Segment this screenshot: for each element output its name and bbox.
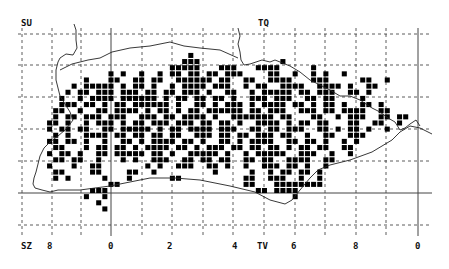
tetrad-record-square: [96, 133, 101, 138]
tetrad-record-square: [127, 127, 132, 132]
tetrad-record-square: [182, 59, 187, 64]
tetrad-record-square: [188, 151, 193, 156]
tetrad-record-square: [280, 108, 285, 113]
tetrad-record-square: [317, 127, 322, 132]
tetrad-record-square: [372, 120, 377, 125]
tetrad-record-square: [139, 133, 144, 138]
tetrad-record-square: [317, 182, 322, 187]
tetrad-record-square: [194, 59, 199, 64]
tetrad-record-square: [213, 145, 218, 150]
tetrad-record-square: [299, 84, 304, 89]
tetrad-record-square: [96, 114, 101, 119]
tetrad-record-square: [102, 133, 107, 138]
tetrad-record-square: [102, 102, 107, 107]
tetrad-record-square: [176, 127, 181, 132]
tetrad-record-square: [250, 96, 255, 101]
tetrad-record-square: [225, 120, 230, 125]
tetrad-record-square: [262, 151, 267, 156]
tetrad-record-square: [299, 108, 304, 113]
tetrad-record-square: [250, 170, 255, 175]
tetrad-record-square: [158, 133, 163, 138]
tetrad-record-square: [268, 163, 273, 168]
tetrad-record-square: [170, 127, 175, 132]
tetrad-record-square: [250, 77, 255, 82]
tetrad-record-square: [299, 120, 304, 125]
tetrad-record-square: [268, 133, 273, 138]
tetrad-record-square: [151, 77, 156, 82]
tetrad-record-square: [121, 151, 126, 156]
tetrad-record-square: [139, 151, 144, 156]
tetrad-record-square: [158, 163, 163, 168]
tetrad-record-square: [305, 139, 310, 144]
tetrad-record-square: [127, 176, 132, 181]
tetrad-record-square: [176, 108, 181, 113]
tetrad-record-square: [256, 188, 261, 193]
tetrad-record-square: [176, 145, 181, 150]
tetrad-record-square: [158, 157, 163, 162]
tetrad-record-square: [311, 108, 316, 113]
tetrad-record-square: [90, 84, 95, 89]
tetrad-record-square: [262, 157, 267, 162]
tetrad-record-square: [90, 102, 95, 107]
tetrad-record-square: [201, 120, 206, 125]
tetrad-record-square: [250, 182, 255, 187]
easting-tick-label: 0: [108, 241, 113, 251]
tetrad-record-square: [170, 114, 175, 119]
tetrad-record-square: [139, 77, 144, 82]
tetrad-record-square: [225, 133, 230, 138]
tetrad-record-square: [250, 145, 255, 150]
tetrad-record-square: [244, 182, 249, 187]
tetrad-record-square: [90, 96, 95, 101]
tetrad-record-square: [90, 114, 95, 119]
tetrad-record-square: [115, 108, 120, 113]
tetrad-record-square: [280, 102, 285, 107]
tetrad-record-square: [151, 170, 156, 175]
tetrad-record-square: [182, 139, 187, 144]
tetrad-record-square: [188, 59, 193, 64]
tetrad-record-square: [84, 127, 89, 132]
tetrad-record-square: [213, 151, 218, 156]
tetrad-record-square: [78, 157, 83, 162]
tetrad-record-square: [188, 120, 193, 125]
tetrad-record-square: [225, 127, 230, 132]
tetrad-record-square: [366, 84, 371, 89]
tetrad-record-square: [342, 139, 347, 144]
tetrad-record-square: [287, 127, 292, 132]
tetrad-record-square: [78, 90, 83, 95]
tetrad-record-square: [65, 90, 70, 95]
tetrad-record-square: [139, 96, 144, 101]
tetrad-record-square: [262, 139, 267, 144]
tetrad-record-square: [274, 90, 279, 95]
tetrad-record-square: [323, 145, 328, 150]
tetrad-record-square: [262, 133, 267, 138]
tetrad-record-square: [231, 108, 236, 113]
tetrad-record-square: [170, 151, 175, 156]
tetrad-record-square: [348, 133, 353, 138]
tetrad-record-square: [280, 96, 285, 101]
tetrad-record-square: [225, 77, 230, 82]
tetrad-record-square: [262, 102, 267, 107]
tetrad-record-square: [231, 145, 236, 150]
tetrad-record-square: [207, 77, 212, 82]
tetrad-record-square: [182, 90, 187, 95]
tetrad-record-square: [244, 163, 249, 168]
tetrad-record-square: [336, 127, 341, 132]
tetrad-record-square: [121, 108, 126, 113]
tetrad-record-square: [158, 120, 163, 125]
tetrad-record-square: [268, 127, 273, 132]
tetrad-record-square: [96, 96, 101, 101]
tetrad-record-square: [244, 151, 249, 156]
tetrad-record-square: [84, 114, 89, 119]
tetrad-record-square: [237, 102, 242, 107]
tetrad-record-square: [188, 90, 193, 95]
tetrad-record-square: [151, 151, 156, 156]
tetrad-record-square: [65, 139, 70, 144]
easting-tick-label: 0: [415, 241, 420, 251]
tetrad-record-square: [188, 127, 193, 132]
tetrad-record-square: [176, 71, 181, 76]
tetrad-record-square: [53, 145, 58, 150]
tetrad-record-square: [102, 139, 107, 144]
tetrad-record-square: [280, 133, 285, 138]
tetrad-record-square: [305, 90, 310, 95]
tetrad-record-square: [115, 133, 120, 138]
